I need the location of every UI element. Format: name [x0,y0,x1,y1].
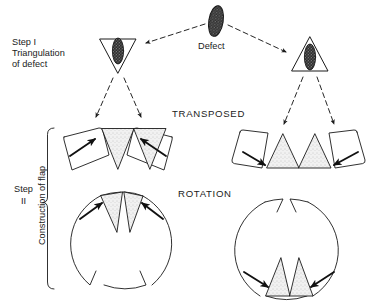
label-transposed: TRANSPOSED [172,108,245,119]
connector-left-triangle-to-transposed-b [124,78,141,117]
connector-left-triangle-to-transposed-a [96,78,113,117]
label-defect: Defect [198,41,225,52]
triangulated-defect-right [292,37,328,71]
connector-right-triangle-to-transposed-b [317,77,334,124]
defect-blob [206,5,225,38]
connector-right-triangle-to-transposed-a [284,77,303,124]
label-step-two: Step II [14,184,33,207]
connector-defect-to-left-triangle [146,24,205,43]
rotation-flap-left [71,192,172,289]
transposed-flap-right [232,130,365,168]
connector-defect-to-right-triangle [228,25,286,52]
rotation-flap-right [234,199,338,300]
surgical-flap-diagram: Step I Triangulation of defect Step II C… [0,0,373,308]
label-step-one: Step I Triangulation of defect [12,37,65,70]
triangulated-defect-left [100,38,136,73]
label-rotation: ROTATION [178,188,232,199]
transposed-flap-left [64,128,173,170]
label-construction-of-flap: Construction of flap [37,145,48,265]
